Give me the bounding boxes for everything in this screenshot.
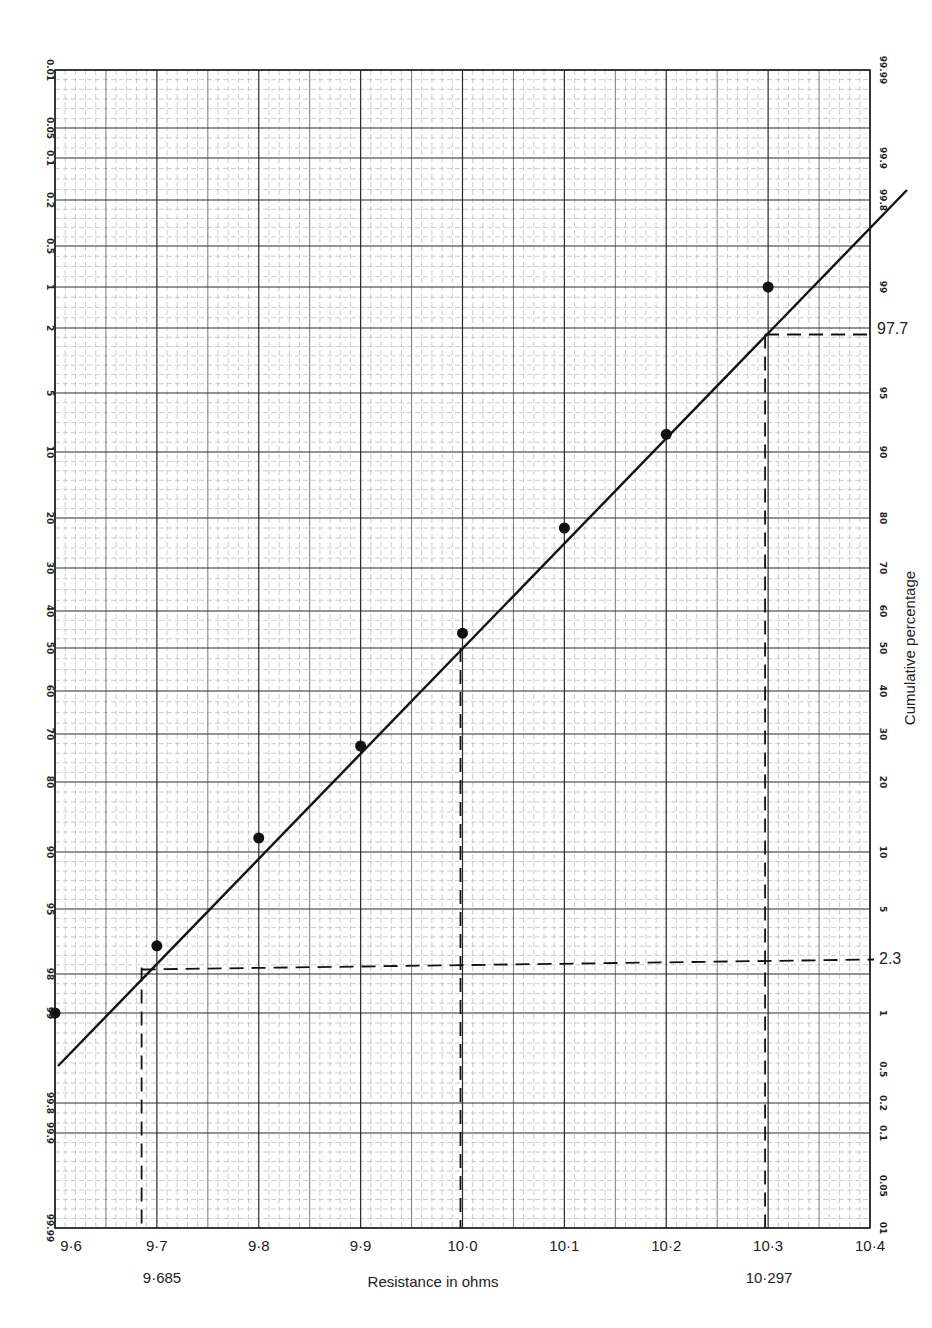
right-tick-label: 99 xyxy=(878,281,888,294)
left-tick-label: 99.99 xyxy=(45,1214,55,1242)
right-tick-label: 50 xyxy=(878,642,888,655)
left-tick-label: 90 xyxy=(45,846,55,859)
annotation-97-7: 97.7 xyxy=(877,320,908,337)
x-tick-label: 10·2 xyxy=(651,1237,681,1254)
x-tick-label: 10·3 xyxy=(753,1237,783,1254)
left-tick-label: 80 xyxy=(45,776,55,789)
right-tick-label: 5 xyxy=(878,906,888,912)
annotation-9-685: 9·685 xyxy=(143,1269,181,1286)
x-tick-label: 10·0 xyxy=(447,1237,477,1254)
right-tick-label: 10 xyxy=(878,846,888,859)
data-point xyxy=(253,833,264,844)
x-axis-title: Resistance in ohms xyxy=(368,1273,499,1290)
left-tick-label: 0.2 xyxy=(45,192,55,208)
x-tick-label: 10·4 xyxy=(855,1237,885,1254)
right-axis-title: Cumulative percentage xyxy=(901,571,918,725)
left-tick-label: 0.1 xyxy=(45,150,55,166)
left-tick-label: 40 xyxy=(45,605,55,618)
right-tick-label: 70 xyxy=(878,562,888,575)
left-tick-label: 99.8 xyxy=(45,1092,55,1114)
left-tick-label: 20 xyxy=(45,512,55,525)
left-tick-label: 30 xyxy=(45,562,55,575)
left-tick-label: 10 xyxy=(45,446,55,459)
data-point xyxy=(457,628,468,639)
fitted-line xyxy=(58,190,907,1066)
right-axis-tick-labels: 99.9999.999.89995908070605040302010510.5… xyxy=(878,56,888,1235)
dashed-guide-lines xyxy=(142,335,874,1229)
right-tick-label: 99.9 xyxy=(878,147,888,169)
right-tick-label: 99.8 xyxy=(878,189,888,211)
left-tick-label: 0.01 xyxy=(45,59,55,81)
data-point xyxy=(151,940,162,951)
fit-line xyxy=(58,190,907,1066)
annotation-10-297: 10·297 xyxy=(746,1269,793,1286)
left-tick-label: 1 xyxy=(45,284,55,290)
x-tick-label: 9·7 xyxy=(146,1237,168,1254)
annotation-2-3: 2.3 xyxy=(879,950,901,967)
left-tick-label: 5 xyxy=(45,390,55,396)
left-tick-label: 70 xyxy=(45,728,55,741)
x-axis-tick-labels: 9·69·79·89·910·010·110·210·310·4 xyxy=(60,1237,885,1254)
left-tick-label: 98 xyxy=(45,968,55,981)
x-tick-label: 10·1 xyxy=(549,1237,579,1254)
right-tick-label: 20 xyxy=(878,776,888,789)
data-point xyxy=(355,741,366,752)
left-tick-label: 0.05 xyxy=(45,117,55,139)
right-tick-label: 90 xyxy=(878,446,888,459)
probability-chart: 0.010.050.10.20.512510203040506070809095… xyxy=(0,0,932,1328)
x-tick-label: 9·6 xyxy=(60,1237,82,1254)
data-point xyxy=(559,523,570,534)
data-point xyxy=(763,282,774,293)
left-tick-label: 95 xyxy=(45,903,55,916)
left-tick-label: 2 xyxy=(45,325,55,331)
left-tick-label: 99 xyxy=(45,1007,55,1020)
right-tick-label: 01 xyxy=(878,1222,888,1235)
right-tick-label: 1 xyxy=(878,1010,888,1016)
right-tick-label: 0.2 xyxy=(878,1095,888,1111)
left-tick-label: 99.9 xyxy=(45,1122,55,1144)
left-tick-label: 0.5 xyxy=(45,238,55,254)
right-tick-label: 60 xyxy=(878,605,888,618)
right-tick-label: 0.1 xyxy=(878,1125,888,1141)
x-tick-label: 9·9 xyxy=(350,1237,372,1254)
left-axis-tick-labels: 0.010.050.10.20.512510203040506070809095… xyxy=(45,59,55,1242)
right-tick-label: 80 xyxy=(878,512,888,525)
left-tick-label: 60 xyxy=(45,685,55,698)
x-tick-label: 9·8 xyxy=(248,1237,270,1254)
right-tick-label: 40 xyxy=(878,685,888,698)
right-tick-label: 0.05 xyxy=(878,1175,888,1197)
right-tick-label: 0.5 xyxy=(878,1061,888,1077)
right-tick-label: 95 xyxy=(878,387,888,400)
right-tick-label: 99.99 xyxy=(878,56,888,84)
left-tick-label: 50 xyxy=(45,642,55,655)
data-point xyxy=(661,429,672,440)
right-tick-label: 30 xyxy=(878,728,888,741)
